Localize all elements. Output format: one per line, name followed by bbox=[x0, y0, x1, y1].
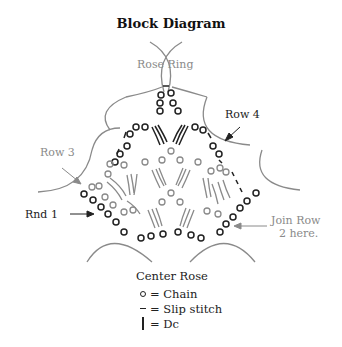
rose-ring-arcs bbox=[38, 42, 300, 262]
row4-label: Row 4 bbox=[225, 108, 260, 121]
legend-heading: Center Rose bbox=[136, 269, 222, 283]
dc-icon bbox=[136, 317, 150, 330]
row3-label: Row 3 bbox=[40, 146, 75, 159]
chain-icon bbox=[136, 291, 150, 297]
grey-dc-stitches bbox=[107, 168, 230, 228]
rnd1-label: Rnd 1 bbox=[25, 208, 58, 221]
dark-dc-stitches bbox=[152, 125, 188, 145]
slip-stitch-icon bbox=[136, 308, 150, 310]
legend-item-text: = Chain bbox=[150, 287, 197, 301]
legend-item-text: = Dc bbox=[150, 317, 179, 331]
join-row-label-line1: Join Row bbox=[271, 214, 320, 227]
rose-ring-label: Rose Ring bbox=[137, 58, 193, 71]
legend-item-text: = Slip stitch bbox=[150, 302, 222, 316]
join-row-label-line2: 2 here. bbox=[279, 227, 318, 240]
legend-item-chain: = Chain bbox=[136, 286, 222, 301]
legend: Center Rose = Chain = Slip stitch = Dc bbox=[136, 269, 222, 331]
legend-item-slip-stitch: = Slip stitch bbox=[136, 301, 222, 316]
grey-arrows bbox=[62, 168, 267, 229]
legend-item-dc: = Dc bbox=[136, 316, 222, 331]
